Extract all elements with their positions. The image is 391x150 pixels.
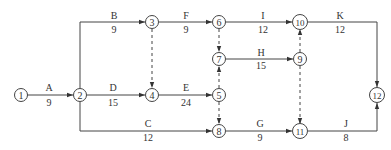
event-node-12-label: 12 (373, 91, 382, 101)
activity-c-duration: 12 (143, 132, 153, 143)
event-node-6: 6 (213, 16, 226, 29)
event-node-11-label: 11 (296, 127, 305, 137)
event-node-1: 1 (15, 89, 28, 102)
event-node-5: 5 (213, 89, 226, 102)
event-node-1-label: 1 (19, 90, 24, 101)
activity-f-duration: 9 (184, 24, 189, 35)
activity-g-duration: 9 (258, 132, 263, 143)
activity-arrows (27, 22, 377, 131)
event-node-9-label: 9 (298, 54, 303, 65)
event-node-8-label: 8 (217, 126, 222, 137)
event-node-3-label: 3 (150, 17, 155, 28)
event-node-7-label: 7 (217, 54, 222, 65)
event-node-8: 8 (213, 125, 226, 138)
activity-b-name: B (111, 10, 118, 21)
activity-f-name: F (183, 10, 189, 21)
activity-e-name: E (183, 82, 189, 93)
network-diagram: A 9 B 9 C 12 D 15 E 24 F 9 G 9 H 15 I 12… (0, 0, 391, 150)
activity-k-duration: 12 (335, 24, 345, 35)
activity-h-name: H (257, 47, 264, 58)
event-node-2-label: 2 (78, 90, 83, 101)
event-node-4-label: 4 (150, 90, 155, 101)
event-node-10-label: 10 (296, 18, 306, 28)
activity-b-duration: 9 (112, 24, 117, 35)
event-node-7: 7 (213, 53, 226, 66)
activity-i-name: I (261, 10, 264, 21)
activity-e-duration: 24 (181, 97, 191, 108)
event-node-5-label: 5 (217, 90, 222, 101)
event-nodes: 1 2 3 4 5 6 7 8 9 10 11 12 (15, 15, 385, 139)
activity-j-duration: 8 (344, 132, 349, 143)
activity-g-name: G (256, 118, 263, 129)
dummy-arrows (152, 29, 300, 124)
activity-h-duration: 15 (256, 60, 266, 71)
activity-a-duration: 9 (47, 97, 52, 108)
activity-j-arrow (308, 103, 377, 131)
activity-a-name: A (45, 82, 53, 93)
event-node-3: 3 (146, 16, 159, 29)
event-node-9: 9 (294, 53, 307, 66)
activity-d-name: D (109, 82, 116, 93)
event-node-10: 10 (293, 15, 308, 30)
event-node-6-label: 6 (217, 17, 222, 28)
event-node-2: 2 (74, 89, 87, 102)
activity-k-name: K (336, 10, 344, 21)
event-node-12: 12 (370, 88, 385, 103)
event-node-4: 4 (146, 89, 159, 102)
activity-labels: A 9 B 9 C 12 D 15 E 24 F 9 G 9 H 15 I 12… (45, 10, 348, 143)
activity-j-name: J (344, 118, 348, 129)
activity-i-duration: 12 (258, 24, 268, 35)
activity-d-duration: 15 (108, 97, 118, 108)
activity-c-name: C (145, 118, 152, 129)
event-node-11: 11 (293, 124, 308, 139)
